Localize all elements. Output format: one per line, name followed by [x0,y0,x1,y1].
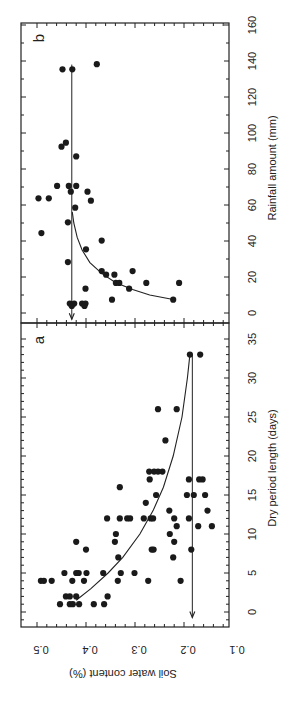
x-tick-label-panel-a: 35 [246,333,258,345]
data-point-panel-b [68,189,74,195]
axis-titles: Soil water content (%) Dry period length… [30,34,278,680]
data-point-panel-b [103,272,109,278]
data-point-panel-b [82,286,88,292]
panel-label-a: a [30,335,47,344]
data-point-panel-a [153,492,159,498]
x-tick-label-panel-a: 25 [246,411,258,423]
data-point-panel-a [70,601,76,607]
data-point-panel-a [101,601,107,607]
data-point-panel-a [186,515,192,521]
data-point-panel-a [73,593,79,599]
data-point-panel-b [170,297,176,303]
x-tick-label-panel-b: 80 [246,163,258,175]
data-point-panel-a [150,515,156,521]
data-point-panel-a [188,547,194,553]
y-tick-label: 0.4 [82,644,97,656]
data-point-panel-a [76,570,82,576]
x-tick-label-panel-a: 20 [246,450,258,462]
x-axis-title-panel-a: Dry period length (days) [266,409,278,526]
y-tick-label: 0.5 [33,644,48,656]
data-point-panel-b [143,280,149,286]
data-point-panel-a [155,406,161,412]
data-point-panel-b [59,66,65,72]
fit-curve-panel-a [76,355,190,601]
data-point-panel-a [112,539,118,545]
data-point-panel-a [174,523,180,529]
data-point-panel-b [126,286,132,292]
chart-canvas: 0.50.40.30.20.10510152025303502040608010… [0,0,297,703]
data-point-panel-a [105,593,111,599]
data-point-panel-a [171,539,177,545]
x-tick-label-panel-a: 0 [246,609,258,615]
data-point-panel-a [117,484,123,490]
data-point-panel-a [159,469,165,475]
data-point-panel-a [202,492,208,498]
x-tick-label-panel-a: 30 [246,372,258,384]
data-point-panel-a [141,515,147,521]
data-point-panel-b [83,246,89,252]
data-point-panel-a [171,515,177,521]
data-point-panel-a [147,476,153,482]
panel-b-frame [21,23,229,323]
data-point-panel-a [76,601,82,607]
data-point-panel-a [67,593,73,599]
panel-label-b: b [30,34,47,42]
data-point-panel-a [61,570,67,576]
data-point-panel-a [100,570,106,576]
y-tick-label: 0.3 [131,644,146,656]
data-point-panel-a [197,352,203,358]
data-point-panel-a [162,437,168,443]
data-point-panel-b [73,153,79,159]
data-point-panel-b [72,205,78,211]
x-axis-title-panel-b: Rainfall amount (mm) [266,115,278,220]
data-point-panel-b [46,195,52,201]
data-point-panel-a [200,476,206,482]
data-point-panel-a [170,554,176,560]
data-point-panel-a [167,531,173,537]
data-point-panel-b [54,183,60,189]
data-point-panel-a [187,352,193,358]
tick-labels: 0.50.40.30.20.10510152025303502040608010… [33,16,258,656]
x-tick-label-panel-b: 140 [246,52,258,70]
data-point-panel-a [69,578,75,584]
data-point-panel-b [65,219,71,225]
data-point-panel-b [69,66,75,72]
axis-ticks [21,23,229,627]
x-tick-label-panel-b: 0 [246,310,258,316]
data-point-panel-b [111,272,117,278]
data-point-panel-a [83,570,89,576]
data-point-panel-a [115,554,121,560]
data-point-panel-b [73,183,79,189]
y-tick-label: 0.1 [229,644,244,656]
data-point-panel-a [178,578,184,584]
data-point-panel-a [57,601,63,607]
data-point-panel-a [115,578,121,584]
data-point-panel-b [63,140,69,146]
data-point-panel-a [143,500,149,506]
data-point-panel-b [69,303,75,309]
data-point-panel-a [83,547,89,553]
data-point-panel-b [99,238,105,244]
data-point-panel-a [184,492,190,498]
x-tick-label-panel-b: 60 [246,199,258,211]
data-point-panel-a [191,492,197,498]
x-tick-label-panel-b: 20 [246,271,258,283]
data-point-panel-b [65,259,71,265]
data-point-panel-a [209,523,215,529]
y-tick-label: 0.2 [180,644,195,656]
data-point-panel-a [117,515,123,521]
data-point-panel-b [88,198,94,204]
data-point-panel-b [81,303,87,309]
data-point-panel-b [176,280,182,286]
data-point-panel-b [94,61,100,67]
data-point-panel-b [130,268,136,274]
data-series [35,61,215,617]
data-point-panel-a [118,570,124,576]
figure: 0.50.40.30.20.10510152025303502040608010… [0,0,297,703]
x-tick-label-panel-a: 5 [246,570,258,576]
data-point-panel-a [145,578,151,584]
data-point-panel-a [49,578,55,584]
data-point-panel-a [195,523,201,529]
x-tick-label-panel-a: 10 [246,528,258,540]
data-point-panel-a [151,547,157,553]
